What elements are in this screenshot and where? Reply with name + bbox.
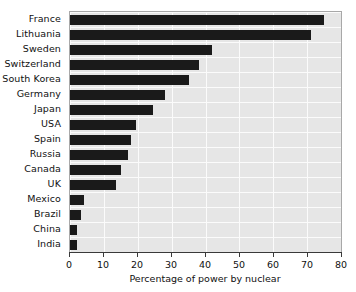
- bar-row: [70, 12, 341, 27]
- x-axis-tick: [171, 252, 172, 257]
- x-axis-tick: [205, 252, 206, 257]
- category-label: Switzerland: [0, 56, 65, 71]
- bar-row: [70, 207, 341, 222]
- bar: [70, 180, 116, 190]
- bar: [70, 45, 212, 55]
- x-axis-ticks: [69, 252, 341, 257]
- category-label: Lithuania: [0, 26, 65, 41]
- x-axis-title: Percentage of power by nuclear: [69, 273, 341, 285]
- category-label: Spain: [0, 131, 65, 146]
- bar-row: [70, 27, 341, 42]
- bar-row: [70, 177, 341, 192]
- bar: [70, 150, 128, 160]
- bar-row: [70, 132, 341, 147]
- category-label: Sweden: [0, 41, 65, 56]
- bar: [70, 105, 153, 115]
- bar: [70, 135, 131, 145]
- x-axis-tick-label: 50: [233, 258, 245, 271]
- category-axis-labels: FranceLithuaniaSwedenSwitzerlandSouth Ko…: [0, 11, 65, 251]
- x-axis-tick-label: 0: [66, 258, 72, 271]
- bar-row: [70, 237, 341, 252]
- x-axis-tick: [307, 252, 308, 257]
- bar-row: [70, 222, 341, 237]
- bar: [70, 120, 136, 130]
- bar-row: [70, 162, 341, 177]
- category-label: Mexico: [0, 191, 65, 206]
- category-label: China: [0, 221, 65, 236]
- x-axis-tick-label: 70: [301, 258, 313, 271]
- bar: [70, 195, 84, 205]
- x-axis-tick-label: 30: [165, 258, 177, 271]
- bar-row: [70, 117, 341, 132]
- category-label: India: [0, 236, 65, 251]
- bar-row: [70, 192, 341, 207]
- category-label: Russia: [0, 146, 65, 161]
- category-label: UK: [0, 176, 65, 191]
- category-label: Canada: [0, 161, 65, 176]
- category-label: Brazil: [0, 206, 65, 221]
- bar-row: [70, 147, 341, 162]
- bar: [70, 225, 77, 235]
- bars-layer: [70, 12, 341, 252]
- x-axis-tick-labels: 01020304050607080: [69, 258, 341, 271]
- x-axis-tick-label: 20: [131, 258, 143, 271]
- bar: [70, 15, 324, 25]
- category-label: France: [0, 11, 65, 26]
- x-axis-tick: [341, 252, 342, 257]
- bar: [70, 60, 199, 70]
- x-axis-tick-label: 10: [97, 258, 109, 271]
- bar: [70, 165, 121, 175]
- x-axis-tick: [69, 252, 70, 257]
- bar-row: [70, 102, 341, 117]
- x-axis-tick: [137, 252, 138, 257]
- bar: [70, 75, 189, 85]
- category-label: USA: [0, 116, 65, 131]
- bar: [70, 30, 311, 40]
- plot-area: [69, 11, 342, 253]
- bar-chart: FranceLithuaniaSwedenSwitzerlandSouth Ko…: [0, 0, 356, 292]
- bar: [70, 210, 81, 220]
- bar-row: [70, 42, 341, 57]
- bar-row: [70, 57, 341, 72]
- bar: [70, 240, 77, 250]
- x-axis-tick: [273, 252, 274, 257]
- category-label: Japan: [0, 101, 65, 116]
- category-label: Germany: [0, 86, 65, 101]
- bar-row: [70, 87, 341, 102]
- x-axis-tick: [239, 252, 240, 257]
- bar-row: [70, 72, 341, 87]
- x-axis-tick-label: 80: [335, 258, 347, 271]
- bar: [70, 90, 165, 100]
- category-label: South Korea: [0, 71, 65, 86]
- gridline-vertical: [341, 12, 342, 252]
- x-axis-tick-label: 40: [199, 258, 211, 271]
- x-axis-tick: [103, 252, 104, 257]
- x-axis-tick-label: 60: [267, 258, 279, 271]
